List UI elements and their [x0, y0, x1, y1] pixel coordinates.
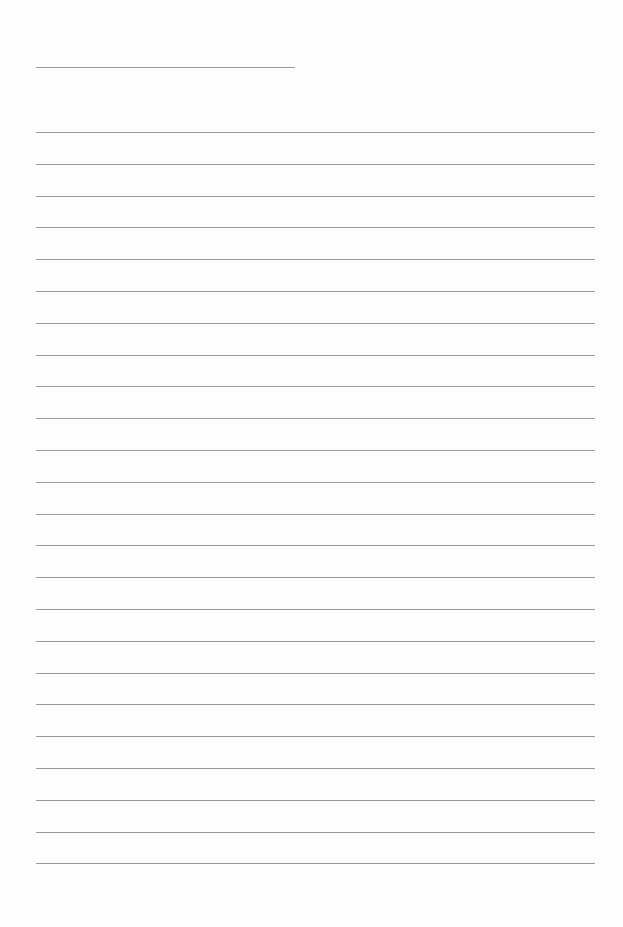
- ruled-line: [36, 768, 595, 769]
- ruled-line: [36, 450, 595, 451]
- ruled-line: [36, 196, 595, 197]
- header-line: [36, 67, 295, 68]
- ruled-line: [36, 736, 595, 737]
- ruled-line: [36, 673, 595, 674]
- ruled-line: [36, 291, 595, 292]
- ruled-line: [36, 577, 595, 578]
- ruled-line: [36, 227, 595, 228]
- ruled-line: [36, 609, 595, 610]
- ruled-line: [36, 704, 595, 705]
- ruled-line: [36, 863, 595, 864]
- ruled-line: [36, 259, 595, 260]
- ruled-line: [36, 418, 595, 419]
- ruled-line: [36, 482, 595, 483]
- ruled-line: [36, 800, 595, 801]
- ruled-line: [36, 832, 595, 833]
- ruled-line: [36, 641, 595, 642]
- ruled-line: [36, 545, 595, 546]
- ruled-line: [36, 386, 595, 387]
- ruled-line: [36, 514, 595, 515]
- ruled-line: [36, 164, 595, 165]
- ruled-line: [36, 132, 595, 133]
- ruled-line: [36, 355, 595, 356]
- ruled-line: [36, 323, 595, 324]
